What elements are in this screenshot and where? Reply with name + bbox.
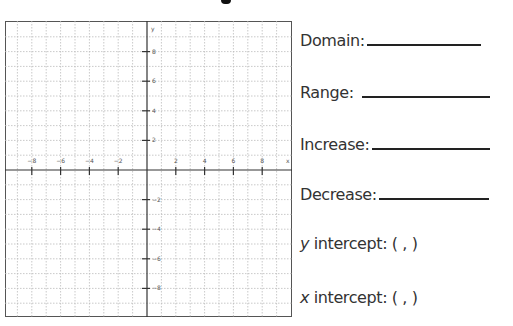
svg-text:6: 6 — [231, 157, 235, 164]
svg-text:−6: −6 — [56, 157, 65, 164]
decrease-field: Decrease: — [300, 184, 489, 204]
increase-blank[interactable] — [372, 134, 490, 150]
domain-blank[interactable] — [367, 30, 481, 46]
domain-label: Domain: — [300, 31, 365, 50]
coordinate-grid: −8−6−4−22468−8−6−4−22468xy — [5, 21, 292, 317]
svg-text:−4: −4 — [152, 225, 161, 232]
svg-text:−8: −8 — [152, 284, 161, 291]
svg-text:6: 6 — [152, 77, 156, 84]
x-intercept-var: x — [300, 288, 309, 307]
range-field: Range: — [300, 82, 490, 102]
decrease-blank[interactable] — [379, 184, 489, 200]
range-blank[interactable] — [362, 82, 490, 98]
svg-text:−2: −2 — [114, 157, 123, 164]
svg-text:2: 2 — [174, 157, 178, 164]
svg-text:8: 8 — [260, 157, 264, 164]
x-intercept-field: x intercept: ( , ) — [300, 288, 418, 307]
y-intercept-field: y intercept: ( , ) — [300, 234, 418, 253]
svg-text:4: 4 — [152, 107, 156, 114]
range-label: Range: — [300, 83, 354, 102]
svg-text:−8: −8 — [27, 157, 36, 164]
increase-label: Increase: — [300, 135, 370, 154]
svg-text:4: 4 — [203, 157, 207, 164]
x-intercept-label: intercept: ( , ) — [309, 288, 418, 307]
decrease-label: Decrease: — [300, 185, 377, 204]
svg-text:2: 2 — [152, 136, 156, 143]
domain-field: Domain: — [300, 30, 481, 50]
svg-text:8: 8 — [152, 48, 156, 55]
svg-text:−2: −2 — [152, 196, 161, 203]
y-intercept-label: intercept: ( , ) — [309, 234, 418, 253]
title-fragment — [221, 0, 231, 4]
y-intercept-var: y — [300, 234, 309, 253]
svg-text:−6: −6 — [152, 255, 161, 262]
svg-text:−4: −4 — [85, 157, 94, 164]
svg-text:y: y — [151, 25, 155, 33]
svg-text:x: x — [286, 157, 290, 164]
increase-field: Increase: — [300, 134, 490, 154]
